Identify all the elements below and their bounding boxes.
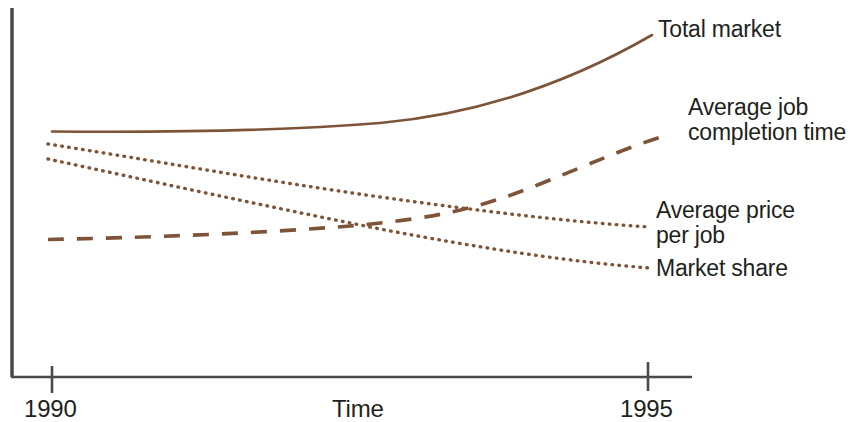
series-label-market-share: Market share (656, 256, 788, 281)
series-line-total-market (52, 35, 652, 132)
trend-chart-figure: Total market Average job completion time… (0, 0, 862, 422)
series-line-market-share (48, 159, 650, 268)
series-label-average-job-completion-time-line1: Average job (688, 95, 808, 120)
series-line-average-price-per-job (48, 144, 650, 227)
series-label-average-job-completion-time-line2: completion time (688, 120, 846, 145)
series-label-average-price-per-job-line2: per job (656, 223, 725, 248)
series-label-total-market: Total market (658, 17, 781, 42)
x-axis-tick-label-end: 1995 (620, 396, 673, 422)
x-axis-title: Time (332, 396, 384, 422)
series-label-average-price-per-job-line1: Average price (656, 198, 795, 223)
x-axis-tick-label-start: 1990 (24, 396, 77, 422)
